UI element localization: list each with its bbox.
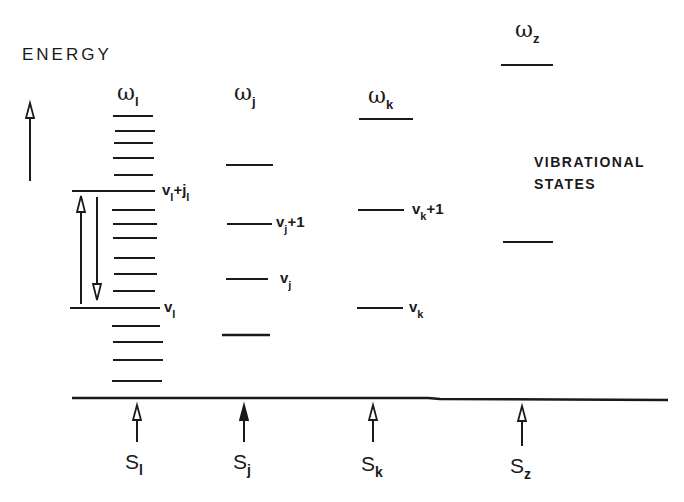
label-vl: vl [164,298,175,320]
label-vk-plus-1: vk+1 [412,200,444,222]
ground-baseline [72,398,668,400]
label-vj-plus-1: vj+1 [276,213,305,235]
energy-level-diagram [0,0,684,502]
source-label-sj: Sj [233,450,251,478]
source-arrow-sz-icon [518,406,526,446]
caption-vibrational-states: VIBRATIONAL STATES [534,151,645,195]
mode-j-frequency-label: ωj [234,80,256,109]
source-arrow-sl-icon [133,405,141,442]
mode-k-levels [357,119,413,308]
mode-z-frequency-label: ωz [515,17,539,46]
energy-axis-title: ENERGY [22,45,112,65]
caption-line-2: STATES [534,173,645,195]
source-label-sz: Sz [510,454,531,482]
source-label-sk: Sk [361,452,383,480]
source-arrow-sj-icon [240,405,248,442]
label-vj: vj [280,269,291,291]
mode-k-frequency-label: ωk [368,83,393,112]
mode-l-frequency-label: ωl [117,80,139,109]
source-arrow-sk-icon [369,405,377,442]
label-vk: vk [409,298,423,320]
caption-line-1: VIBRATIONAL [534,151,645,173]
mode-l-levels [70,116,163,381]
energy-axis-arrow-icon [26,103,34,181]
emission-arrow-down-icon [93,197,101,300]
mode-j-levels [222,165,273,335]
source-label-sl: Sl [125,450,143,478]
absorption-arrow-up-icon [77,196,85,304]
label-vl-plus-jl: vl+jl [162,181,189,203]
